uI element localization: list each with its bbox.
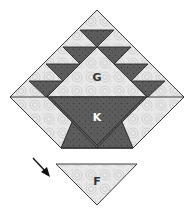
arrow-icon bbox=[33, 158, 50, 177]
label-f: F bbox=[93, 175, 101, 188]
label-k: K bbox=[93, 111, 102, 124]
quilt-block-diagram: G K F bbox=[0, 0, 192, 213]
label-g: G bbox=[92, 71, 101, 84]
